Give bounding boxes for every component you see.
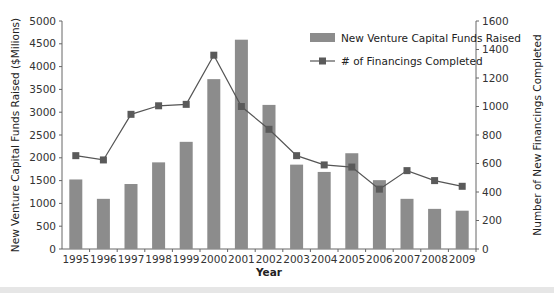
marker-2002	[266, 126, 273, 133]
bar-1999	[180, 142, 193, 249]
bar-1997	[125, 184, 138, 249]
left-tick-label: 3500	[29, 83, 56, 95]
bar-1998	[152, 162, 165, 249]
x-tick-label: 2007	[394, 253, 421, 265]
marker-2004	[321, 161, 328, 168]
bar-1996	[97, 199, 110, 249]
right-tick-label: 0	[482, 243, 489, 255]
right-tick-label: 1000	[482, 100, 509, 112]
bar-2003	[290, 165, 303, 249]
marker-2007	[404, 167, 411, 174]
marker-1997	[128, 111, 135, 118]
x-tick-label: 2002	[256, 253, 283, 265]
x-tick-label: 2000	[200, 253, 227, 265]
marker-1998	[155, 102, 162, 109]
right-axis-title: Number of New Financings Completed	[531, 34, 543, 235]
bar-2000	[207, 79, 220, 249]
bar-2008	[428, 209, 441, 249]
bar-2007	[401, 199, 414, 249]
x-tick-label: 1997	[118, 253, 145, 265]
bar-2001	[235, 40, 248, 249]
marker-1999	[183, 101, 190, 108]
x-tick-label: 2003	[283, 253, 310, 265]
marker-2003	[293, 152, 300, 159]
legend-line-label: # of Financings Completed	[341, 55, 483, 67]
right-tick-label: 800	[482, 129, 502, 141]
x-tick-label: 2004	[311, 253, 338, 265]
bar-2004	[318, 172, 331, 249]
legend-bar-label: New Venture Capital Funds Raised	[341, 32, 521, 44]
x-tick-label: 1995	[62, 253, 89, 265]
bar-2009	[456, 211, 469, 249]
legend-line-marker	[319, 58, 326, 65]
marker-1995	[72, 152, 79, 159]
marker-2008	[431, 177, 438, 184]
legend-bar-swatch	[310, 33, 335, 42]
left-axis-title: New Venture Capital Funds Raised ($Milio…	[9, 18, 21, 252]
left-tick-label: 2000	[29, 151, 56, 163]
right-tick-label: 600	[482, 157, 502, 169]
right-tick-label: 200	[482, 214, 502, 226]
left-tick-label: 1000	[29, 197, 56, 209]
left-tick-label: 4500	[29, 37, 56, 49]
marker-2009	[459, 183, 466, 190]
x-tick-label: 1998	[145, 253, 172, 265]
x-axis-title: Year	[255, 266, 283, 278]
right-tick-label: 400	[482, 186, 502, 198]
marker-2005	[348, 164, 355, 171]
left-tick-label: 4000	[29, 60, 56, 72]
marker-1996	[100, 156, 107, 163]
right-tick-label: 1400	[482, 43, 509, 55]
left-tick-label: 1500	[29, 174, 56, 186]
right-tick-label: 1600	[482, 15, 509, 27]
bar-1995	[69, 179, 82, 249]
left-tick-label: 500	[36, 220, 56, 232]
right-tick-label: 1200	[482, 72, 509, 84]
left-tick-label: 5000	[29, 15, 56, 27]
marker-2000	[210, 52, 217, 59]
left-tick-label: 2500	[29, 129, 56, 141]
left-tick-label: 0	[49, 243, 56, 255]
marker-2001	[238, 103, 245, 110]
x-tick-label: 1999	[173, 253, 200, 265]
marker-2006	[376, 186, 383, 193]
combo-chart: 0500100015002000250030003500400045005000…	[0, 0, 554, 293]
x-tick-label: 2001	[228, 253, 255, 265]
x-tick-label: 2008	[421, 253, 448, 265]
x-tick-label: 2005	[338, 253, 365, 265]
x-tick-label: 1996	[90, 253, 117, 265]
x-tick-label: 2009	[449, 253, 476, 265]
x-tick-label: 2006	[366, 253, 393, 265]
left-tick-label: 3000	[29, 106, 56, 118]
